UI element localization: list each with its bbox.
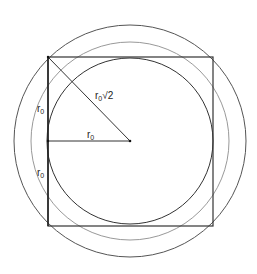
diagonal-label: r0√2 [95, 90, 114, 102]
center-point [129, 140, 132, 143]
corner-point [47, 56, 49, 58]
side-upper-label: r0 [37, 103, 44, 115]
radius-label: r0 [87, 129, 94, 141]
geometry-diagram: r0√2 r0 r0 r0 [0, 0, 257, 274]
edge-point [47, 140, 49, 142]
side-lower-label: r0 [37, 167, 44, 179]
